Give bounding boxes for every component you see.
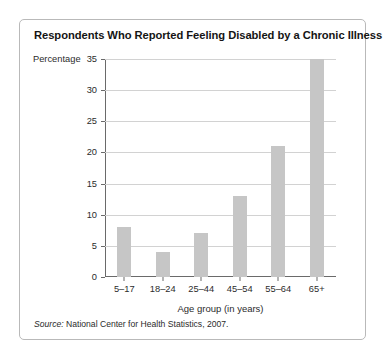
y-tick-label: 5 (92, 241, 97, 251)
x-tick-label: 5–17 (114, 284, 135, 294)
bar-group: 65+ (298, 59, 337, 277)
bar (156, 252, 170, 277)
y-tick-mark (101, 277, 105, 278)
x-tick-label: 18–24 (150, 284, 176, 294)
x-tick-mark (316, 277, 317, 281)
x-tick-mark (278, 277, 279, 281)
y-tick-label: 35 (87, 54, 97, 64)
bar-group: 45–54 (221, 59, 260, 277)
y-axis-title: Percentage (33, 54, 81, 64)
x-tick-mark (124, 277, 125, 281)
bar (233, 196, 247, 277)
bar (194, 233, 208, 277)
bar (271, 146, 285, 277)
source-note: Source: National Center for Health Stati… (34, 319, 228, 329)
x-tick-label: 25–44 (188, 284, 214, 294)
x-tick-mark (162, 277, 163, 281)
bar-series: 5–1718–2425–4445–5455–6465+ (105, 59, 336, 277)
source-value: National Center for Health Statistics, 2… (64, 319, 229, 329)
y-tick-label: 30 (87, 85, 97, 95)
x-tick-label: 55–64 (265, 284, 291, 294)
x-tick-label: 65+ (309, 284, 325, 294)
chart-title: Respondents Who Reported Feeling Disable… (34, 29, 382, 41)
bar (310, 59, 324, 277)
y-tick-label: 10 (87, 210, 97, 220)
x-tick-label: 45–54 (227, 284, 253, 294)
y-tick-label: 15 (87, 179, 97, 189)
chart-card: Respondents Who Reported Feeling Disable… (19, 19, 366, 340)
bar-group: 25–44 (182, 59, 221, 277)
x-tick-mark (239, 277, 240, 281)
y-tick-label: 0 (92, 272, 97, 282)
bar-group: 55–64 (259, 59, 298, 277)
x-axis-title: Age group (in years) (105, 303, 336, 314)
bar (117, 227, 131, 277)
source-label: Source: (34, 319, 64, 329)
y-tick-label: 25 (87, 116, 97, 126)
y-tick-label: 20 (87, 147, 97, 157)
x-tick-mark (201, 277, 202, 281)
bar-group: 18–24 (144, 59, 183, 277)
bar-group: 5–17 (105, 59, 144, 277)
plot-area: 05101520253035 5–1718–2425–4445–5455–646… (105, 59, 336, 277)
